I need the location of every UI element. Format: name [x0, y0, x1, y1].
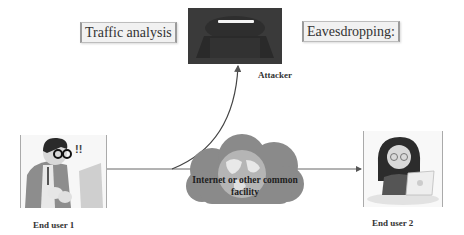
cloud-label-line1: Internet or other common — [182, 174, 308, 186]
man-at-laptop-icon: !! — [21, 135, 106, 208]
cloud-node: Internet or other common facility — [182, 132, 308, 208]
end-user-1-node: !! — [20, 135, 107, 208]
svg-text:!!: !! — [75, 143, 82, 155]
end-user-1-label: End user 1 — [33, 220, 74, 230]
traffic-analysis-label: Traffic analysis — [80, 22, 177, 43]
attacker-label: Attacker — [258, 70, 292, 80]
attacker-node — [188, 8, 282, 64]
end-user-2-node — [363, 131, 443, 207]
cloud-label-line2: facility — [182, 186, 308, 198]
eavesdropping-label: Eavesdropping: — [302, 21, 400, 42]
woman-at-laptop-icon — [364, 131, 442, 207]
end-user-2-label: End user 2 — [372, 218, 413, 228]
attacker-icon — [188, 8, 282, 64]
